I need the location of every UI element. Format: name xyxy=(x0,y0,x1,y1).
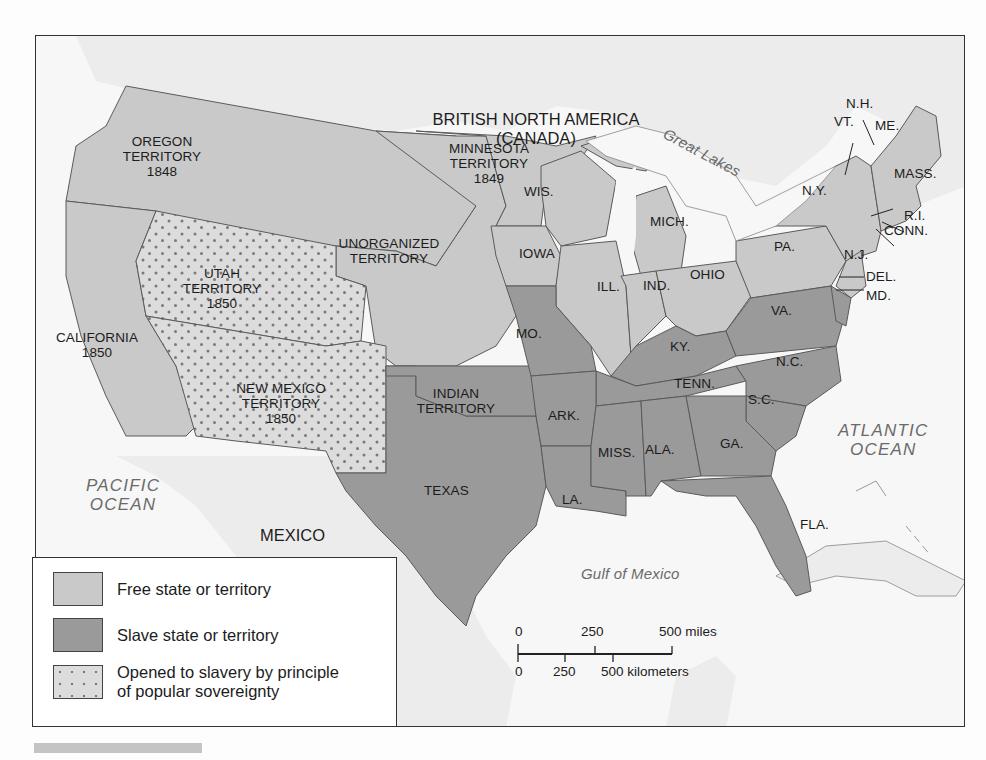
label-minnesota-line1: MINNESOTA xyxy=(449,141,529,156)
label-vt: VT. xyxy=(834,114,854,129)
label-mo: MO. xyxy=(516,326,542,341)
label-atlantic-line2: OCEAN xyxy=(838,440,929,459)
label-new-mexico-territory: NEW MEXICO TERRITORY 1850 xyxy=(236,381,326,426)
label-iowa: IOWA xyxy=(519,246,555,261)
label-ohio: OHIO xyxy=(690,267,725,282)
label-utah-territory: UTAH TERRITORY 1850 xyxy=(183,266,261,311)
label-gulf-of-mexico: Gulf of Mexico xyxy=(581,564,680,583)
label-oregon-territory: OREGON TERRITORY 1848 xyxy=(123,134,201,179)
label-ny: N.Y. xyxy=(802,183,827,198)
label-texas: TEXAS xyxy=(424,483,469,498)
legend-item-slave: Slave state or territory xyxy=(53,618,278,652)
label-minnesota-line3: 1849 xyxy=(449,171,529,186)
label-miss: MISS. xyxy=(598,445,635,460)
label-oregon-line1: OREGON xyxy=(123,134,201,149)
label-ri: R.I. xyxy=(904,208,925,223)
legend-label-slave: Slave state or territory xyxy=(117,626,278,645)
label-mexico: MEXICO xyxy=(260,526,325,545)
label-canada-line1: BRITISH NORTH AMERICA xyxy=(433,110,640,129)
label-new-mexico-line3: 1850 xyxy=(236,411,326,426)
legend-label-ps-line1: Opened to slavery by principle xyxy=(117,663,339,682)
label-oregon-line2: TERRITORY xyxy=(123,149,201,164)
label-california-line2: 1850 xyxy=(56,345,138,360)
label-ill: ILL. xyxy=(597,279,620,294)
label-unorganized-line1: UNORGANIZED xyxy=(339,236,440,251)
caption-placeholder-bar xyxy=(34,743,202,753)
label-conn: CONN. xyxy=(884,223,928,238)
map-legend: Free state or territory Slave state or t… xyxy=(32,557,397,727)
legend-label-free: Free state or territory xyxy=(117,580,271,599)
legend-swatch-slave xyxy=(53,618,103,652)
label-ga: GA. xyxy=(720,436,744,451)
label-indian-line2: TERRITORY xyxy=(417,401,495,416)
label-minnesota-territory: MINNESOTA TERRITORY 1849 xyxy=(449,141,529,186)
label-new-mexico-line1: NEW MEXICO xyxy=(236,381,326,396)
label-mich: MICH. xyxy=(650,214,689,229)
label-california: CALIFORNIA 1850 xyxy=(56,330,138,360)
label-nj: N.J. xyxy=(844,247,868,262)
label-ark: ARK. xyxy=(548,408,580,423)
legend-item-free: Free state or territory xyxy=(53,572,271,606)
label-oregon-line3: 1848 xyxy=(123,164,201,179)
label-pacific-line2: OCEAN xyxy=(86,495,160,514)
label-sc: S.C. xyxy=(748,392,775,407)
label-atlantic-line1: ATLANTIC xyxy=(838,421,929,440)
scale-ruler xyxy=(513,624,773,694)
label-unorganized-territory: UNORGANIZED TERRITORY xyxy=(339,236,440,266)
label-california-line1: CALIFORNIA xyxy=(56,330,138,345)
label-me: ME. xyxy=(875,118,899,133)
label-fla: FLA. xyxy=(800,517,829,532)
label-tenn: TENN. xyxy=(674,376,715,391)
label-va: VA. xyxy=(771,303,792,318)
legend-swatch-popular-sovereignty xyxy=(53,665,103,699)
label-indian-line1: INDIAN xyxy=(417,386,495,401)
scale-km-500: 500 kilometers xyxy=(601,664,689,679)
label-minnesota-line2: TERRITORY xyxy=(449,156,529,171)
scale-km-0: 0 xyxy=(515,664,523,679)
label-mass: MASS. xyxy=(894,166,937,181)
label-pa: PA. xyxy=(774,239,795,254)
scale-bar: 0 250 500 miles 0 250 500 kilometers xyxy=(513,624,773,694)
legend-item-popular-sovereignty: Opened to slavery by principle of popula… xyxy=(53,663,339,701)
scale-km-250: 250 xyxy=(553,664,576,679)
legend-label-ps-line2: of popular sovereignty xyxy=(117,682,339,701)
label-unorganized-line2: TERRITORY xyxy=(339,251,440,266)
label-indian-territory: INDIAN TERRITORY xyxy=(417,386,495,416)
legend-swatch-free xyxy=(53,572,103,606)
label-nc: N.C. xyxy=(776,354,803,369)
label-ky: KY. xyxy=(670,339,690,354)
legend-label-popular-sovereignty: Opened to slavery by principle of popula… xyxy=(117,663,339,701)
label-del: DEL. xyxy=(866,269,896,284)
label-la: LA. xyxy=(562,492,583,507)
label-utah-line1: UTAH xyxy=(183,266,261,281)
label-pacific-ocean: PACIFIC OCEAN xyxy=(86,476,160,514)
label-ala: ALA. xyxy=(645,442,675,457)
label-atlantic-ocean: ATLANTIC OCEAN xyxy=(838,421,929,459)
label-utah-line3: 1850 xyxy=(183,296,261,311)
label-utah-line2: TERRITORY xyxy=(183,281,261,296)
label-pacific-line1: PACIFIC xyxy=(86,476,160,495)
label-ind: IND. xyxy=(643,278,670,293)
label-md: MD. xyxy=(866,288,891,303)
label-wis: WIS. xyxy=(524,184,554,199)
label-new-mexico-line2: TERRITORY xyxy=(236,396,326,411)
label-nh: N.H. xyxy=(846,96,873,111)
